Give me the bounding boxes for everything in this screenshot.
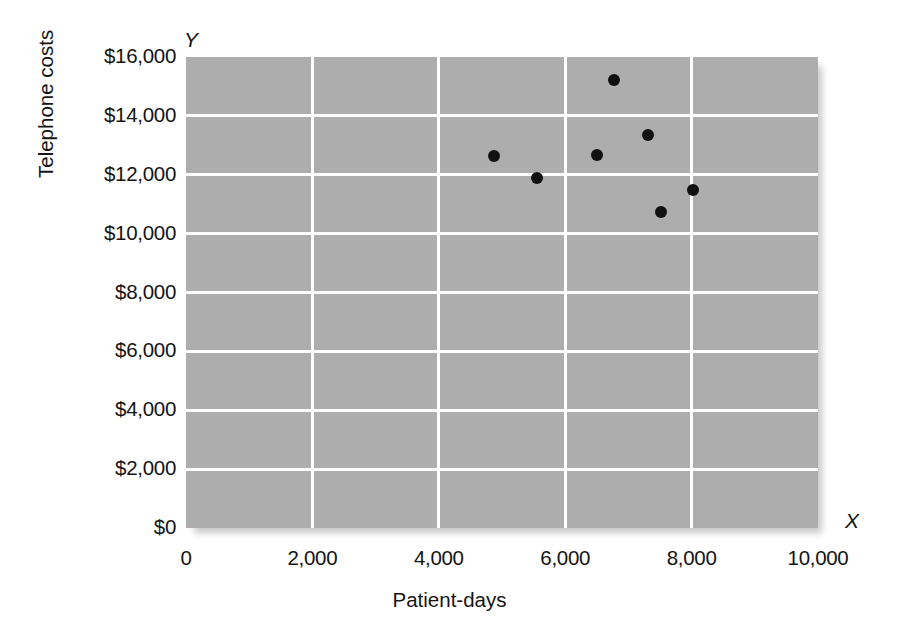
gridline-horizontal bbox=[186, 232, 818, 235]
x-axis-tick-label: 2,000 bbox=[287, 546, 337, 570]
x-axis-tick-label: 6,000 bbox=[540, 546, 590, 570]
y-axis-tick-label: $6,000 bbox=[115, 338, 176, 362]
y-axis-letter: Y bbox=[184, 28, 198, 52]
gridline-horizontal bbox=[186, 468, 818, 471]
x-axis-tick-label: 8,000 bbox=[667, 546, 717, 570]
y-axis-tick-label: $4,000 bbox=[115, 397, 176, 421]
data-point bbox=[488, 150, 500, 162]
x-axis-tick-label: 0 bbox=[180, 546, 191, 570]
y-axis-tick-label: $10,000 bbox=[104, 221, 176, 245]
y-axis-tick-label: $12,000 bbox=[104, 162, 176, 186]
x-axis-letter: X bbox=[845, 509, 859, 533]
gridline-vertical bbox=[564, 57, 567, 528]
y-axis-tick-label: $16,000 bbox=[104, 44, 176, 68]
y-axis-tick-label: $8,000 bbox=[115, 280, 176, 304]
gridline-horizontal bbox=[186, 350, 818, 353]
scatter-chart: Y X $0$2,000$4,000$6,000$8,000$10,000$12… bbox=[0, 0, 899, 643]
plot-area bbox=[186, 57, 818, 528]
y-axis-tick-label: $0 bbox=[154, 515, 176, 539]
gridline-horizontal bbox=[186, 409, 818, 412]
gridline-vertical bbox=[690, 57, 693, 528]
gridline-vertical bbox=[437, 57, 440, 528]
data-point bbox=[655, 206, 667, 218]
data-point bbox=[642, 129, 654, 141]
y-axis-tick-label: $2,000 bbox=[115, 456, 176, 480]
x-axis-title: Patient-days bbox=[0, 588, 899, 612]
x-axis-tick-label: 10,000 bbox=[788, 546, 849, 570]
data-point bbox=[687, 184, 699, 196]
data-point bbox=[531, 172, 543, 184]
gridline-horizontal bbox=[186, 114, 818, 117]
data-point bbox=[591, 149, 603, 161]
gridline-horizontal bbox=[186, 173, 818, 176]
y-axis-tick-label: $14,000 bbox=[104, 103, 176, 127]
y-axis-title: Telephone costs bbox=[34, 0, 58, 178]
gridline-vertical bbox=[311, 57, 314, 528]
data-point bbox=[608, 74, 620, 86]
gridline-horizontal bbox=[186, 291, 818, 294]
x-axis-tick-label: 4,000 bbox=[414, 546, 464, 570]
y-axis-tick-labels: $0$2,000$4,000$6,000$8,000$10,000$12,000… bbox=[0, 0, 176, 643]
